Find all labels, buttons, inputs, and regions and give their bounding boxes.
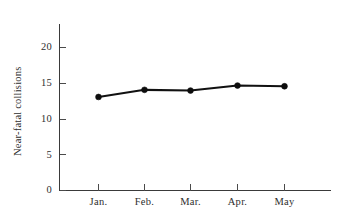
y-tick-label-10: 10 [30,114,52,125]
y-tick-label-5: 5 [30,150,52,161]
data-point-may [282,83,288,89]
data-point-apr [235,83,241,89]
x-axis-ticks [99,184,285,191]
x-tick-label-feb: Feb. [122,197,168,208]
y-tick-label-20: 20 [30,42,52,53]
chart-figure: Near-fatal collisions 0 5 10 15 20 Jan. … [0,0,342,221]
data-point-jan [96,94,102,100]
data-point-feb [142,87,148,93]
x-tick-label-jan: Jan. [76,197,122,208]
data-point-mar [188,88,194,94]
y-axis-ticks [60,48,67,191]
x-tick-label-apr: Apr. [215,197,261,208]
y-tick-label-0: 0 [30,185,52,196]
x-tick-label-mar: Mar. [168,197,214,208]
y-axis-title: Near-fatal collisions [13,51,24,171]
y-tick-label-15: 15 [30,78,52,89]
x-tick-label-may: May [262,197,308,208]
